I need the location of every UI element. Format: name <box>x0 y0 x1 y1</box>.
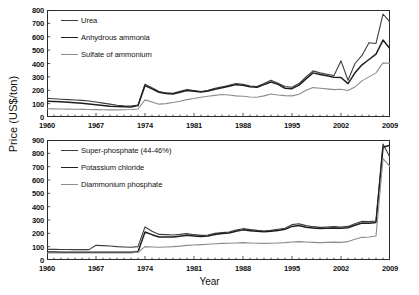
phosphate-potash-chart: 0100200300400500600700800900 19601967197… <box>47 140 390 260</box>
x-tick-label: 1960 <box>39 121 55 130</box>
x-tick-label: 1995 <box>284 121 300 130</box>
x-axis-label: Year <box>0 276 419 287</box>
y-tick-label: 500 <box>32 189 44 198</box>
y-tick-label: 400 <box>32 59 44 68</box>
x-tick-label: 1981 <box>186 121 202 130</box>
x-tick-label: 1974 <box>137 264 153 273</box>
y-tick-label: 900 <box>32 136 44 145</box>
y-tick-label: 300 <box>32 72 44 81</box>
legend-swatch-icon <box>61 37 78 38</box>
legend-label: Super-phosphate (44-46%) <box>81 146 171 155</box>
legend-item: Sulfate of ammonium <box>61 48 152 61</box>
x-tick-label: 2009 <box>382 121 398 130</box>
legend-label: Urea <box>81 16 97 25</box>
legend-item: Urea <box>61 14 152 27</box>
y-tick-label: 500 <box>32 46 44 55</box>
chart-figure: Price (US$/ton) 010020030040050060070080… <box>0 0 419 295</box>
legend-item: Potassium chloride <box>61 161 171 174</box>
nitrogen-fertilizer-chart: 0100200300400500600700800 19601967197419… <box>47 10 390 117</box>
y-tick-label: 100 <box>32 242 44 251</box>
legend-label: Sulfate of ammonium <box>81 50 152 59</box>
legend-item: Super-phosphate (44-46%) <box>61 144 171 157</box>
legend-label: Anhydrous ammonia <box>81 33 150 42</box>
legend-top: UreaAnhydrous ammoniaSulfate of ammonium <box>61 14 152 65</box>
y-tick-label: 700 <box>32 162 44 171</box>
x-tick-label: 1960 <box>39 264 55 273</box>
y-tick-label: 600 <box>32 176 44 185</box>
x-tick-label: 1967 <box>88 264 104 273</box>
y-tick-label: 800 <box>32 149 44 158</box>
x-tick-label: 2009 <box>382 264 398 273</box>
x-tick-label: 1988 <box>235 264 251 273</box>
y-tick-label: 600 <box>32 32 44 41</box>
legend-swatch-icon <box>61 20 78 21</box>
legend-bottom: Super-phosphate (44-46%)Potassium chlori… <box>61 144 171 195</box>
x-tick-label: 1981 <box>186 264 202 273</box>
y-tick-label: 200 <box>32 229 44 238</box>
legend-label: Diammonium phosphate <box>81 180 162 189</box>
legend-swatch-icon <box>61 54 78 55</box>
legend-swatch-icon <box>61 150 78 151</box>
x-tick-label: 2002 <box>333 121 349 130</box>
legend-item: Anhydrous ammonia <box>61 31 152 44</box>
x-tick-label: 1995 <box>284 264 300 273</box>
y-axis-label: Price (US$/ton) <box>7 54 19 174</box>
y-tick-label: 100 <box>32 99 44 108</box>
y-tick-label: 800 <box>32 6 44 15</box>
legend-label: Potassium chloride <box>81 163 144 172</box>
x-tick-label: 2002 <box>333 264 349 273</box>
y-tick-label: 200 <box>32 86 44 95</box>
x-tick-label: 1988 <box>235 121 251 130</box>
legend-item: Diammonium phosphate <box>61 178 171 191</box>
y-tick-label: 400 <box>32 202 44 211</box>
legend-swatch-icon <box>61 167 78 168</box>
x-tick-label: 1967 <box>88 121 104 130</box>
x-tick-label: 1974 <box>137 121 153 130</box>
y-tick-label: 300 <box>32 216 44 225</box>
legend-swatch-icon <box>61 184 78 185</box>
y-tick-label: 700 <box>32 19 44 28</box>
